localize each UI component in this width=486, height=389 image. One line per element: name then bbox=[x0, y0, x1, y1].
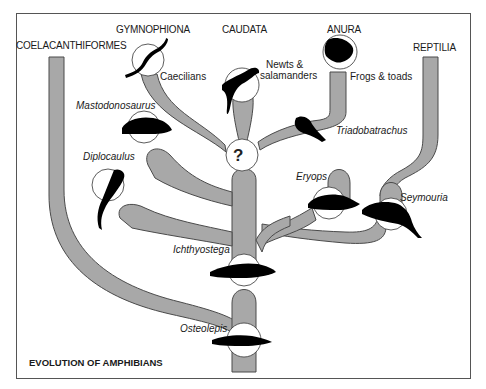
label-osteolepis: Osteolepis bbox=[180, 323, 227, 334]
label-frogs-toads: Frogs & toads bbox=[350, 71, 412, 82]
label-diplocaulus: Diplocaulus bbox=[83, 151, 135, 162]
label-ichthyostega: Ichthyostega bbox=[173, 244, 230, 255]
diagram-title: EVOLUTION OF AMPHIBIANS bbox=[29, 357, 163, 368]
branch-trunk-upper bbox=[232, 169, 256, 262]
branch-caudata bbox=[233, 98, 253, 145]
label-anura: ANURA bbox=[327, 24, 361, 35]
branch-gymnophiona bbox=[141, 74, 226, 152]
label-gymnophiona: GYMNOPHIONA bbox=[116, 24, 190, 35]
label-caecilians: Caecilians bbox=[160, 71, 206, 82]
ichthyostega-silhouette-icon bbox=[210, 263, 276, 278]
branch-mastodonosaurus bbox=[147, 149, 232, 206]
label-reptilia: REPTILIA bbox=[413, 42, 456, 53]
osteolepis-silhouette-icon bbox=[212, 335, 272, 346]
unknown-ancestor-question-mark: ? bbox=[233, 147, 243, 164]
label-caudata: CAUDATA bbox=[222, 24, 267, 35]
branch-diplocaulus bbox=[119, 204, 232, 246]
label-seymouria: Seymouria bbox=[400, 192, 448, 203]
label-mastodonosaurus: Mastodonosaurus bbox=[76, 100, 156, 111]
label-triadobatrachus: Triadobatrachus bbox=[336, 125, 408, 136]
label-newts-line2: salamanders bbox=[260, 70, 317, 81]
label-newts-line1: Newts & bbox=[266, 59, 303, 70]
label-eryops: Eryops bbox=[296, 171, 327, 182]
label-coelacanthiformes: COELACANTHIFORMES bbox=[16, 40, 127, 51]
branch-anura bbox=[258, 72, 346, 150]
